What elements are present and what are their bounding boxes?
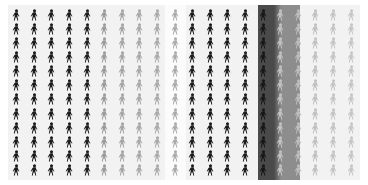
person-icon xyxy=(275,122,286,134)
icon-cell xyxy=(114,51,132,63)
person-icon xyxy=(187,122,198,134)
icon-cell xyxy=(219,136,237,148)
person-icon xyxy=(205,37,216,49)
person-icon xyxy=(346,9,357,21)
person-icon xyxy=(293,136,304,148)
person-icon xyxy=(117,93,128,105)
icon-column[interactable] xyxy=(131,5,149,180)
person-icon xyxy=(205,9,216,21)
icon-cell xyxy=(290,122,308,134)
icon-column[interactable] xyxy=(8,5,26,180)
icon-cell xyxy=(78,150,96,162)
icon-cell xyxy=(237,93,255,105)
icon-cell xyxy=(43,164,61,176)
person-icon xyxy=(346,122,357,134)
person-icon xyxy=(117,65,128,77)
icon-column[interactable] xyxy=(43,5,61,180)
icon-cell xyxy=(131,51,149,63)
icon-column[interactable] xyxy=(325,5,343,180)
icon-cell xyxy=(131,79,149,91)
person-icon xyxy=(293,164,304,176)
person-icon xyxy=(117,136,128,148)
person-icon xyxy=(46,51,57,63)
person-icon xyxy=(82,93,93,105)
icon-cell xyxy=(149,150,167,162)
person-icon xyxy=(99,108,110,120)
icon-cell xyxy=(290,108,308,120)
icon-cell xyxy=(342,23,360,35)
person-icon xyxy=(170,23,181,35)
person-icon xyxy=(275,108,286,120)
icon-cell xyxy=(237,164,255,176)
icon-cell xyxy=(307,23,325,35)
icon-column[interactable] xyxy=(166,5,184,180)
icon-column[interactable] xyxy=(290,5,308,180)
icon-cell xyxy=(342,164,360,176)
person-icon xyxy=(134,37,145,49)
icon-cell xyxy=(78,37,96,49)
icon-cell xyxy=(26,122,44,134)
icon-column[interactable] xyxy=(114,5,132,180)
icon-cell xyxy=(219,93,237,105)
person-icon xyxy=(222,122,233,134)
icon-cell xyxy=(307,122,325,134)
person-icon xyxy=(170,108,181,120)
icon-column[interactable] xyxy=(61,5,79,180)
icon-cell xyxy=(166,93,184,105)
person-icon xyxy=(152,164,163,176)
person-icon xyxy=(46,122,57,134)
icon-cell xyxy=(131,23,149,35)
icon-cell xyxy=(219,37,237,49)
person-icon xyxy=(346,150,357,162)
person-icon xyxy=(64,150,75,162)
person-icon xyxy=(82,164,93,176)
icon-cell xyxy=(307,37,325,49)
icon-cell xyxy=(26,93,44,105)
icon-cell xyxy=(8,23,26,35)
icon-column[interactable] xyxy=(202,5,220,180)
person-icon xyxy=(240,93,251,105)
icon-column[interactable] xyxy=(272,5,290,180)
person-icon xyxy=(152,37,163,49)
person-icon xyxy=(99,23,110,35)
icon-column[interactable] xyxy=(254,5,272,180)
person-icon xyxy=(117,51,128,63)
icon-column[interactable] xyxy=(96,5,114,180)
icon-cell xyxy=(325,37,343,49)
person-icon xyxy=(170,79,181,91)
person-icon xyxy=(64,136,75,148)
icon-column[interactable] xyxy=(219,5,237,180)
icon-column[interactable] xyxy=(26,5,44,180)
icon-cell xyxy=(290,37,308,49)
person-icon xyxy=(205,136,216,148)
icon-cell xyxy=(114,108,132,120)
icon-cell xyxy=(166,150,184,162)
icon-cell xyxy=(184,93,202,105)
icon-column[interactable] xyxy=(78,5,96,180)
icon-cell xyxy=(272,23,290,35)
icon-column[interactable] xyxy=(237,5,255,180)
icon-cell xyxy=(254,79,272,91)
person-icon xyxy=(29,79,40,91)
icon-cell xyxy=(290,9,308,21)
icon-cell xyxy=(325,122,343,134)
icon-cell xyxy=(184,108,202,120)
icon-cell xyxy=(325,9,343,21)
person-icon xyxy=(64,79,75,91)
icon-cell xyxy=(26,23,44,35)
icon-cell xyxy=(61,150,79,162)
person-icon xyxy=(187,93,198,105)
icon-cell xyxy=(290,93,308,105)
person-icon xyxy=(205,122,216,134)
icon-cell xyxy=(96,79,114,91)
person-icon xyxy=(275,79,286,91)
icon-column[interactable] xyxy=(307,5,325,180)
person-icon xyxy=(134,79,145,91)
person-icon xyxy=(205,23,216,35)
icon-column[interactable] xyxy=(342,5,360,180)
icon-cell xyxy=(43,37,61,49)
icon-column[interactable] xyxy=(184,5,202,180)
person-icon xyxy=(222,9,233,21)
icon-cell xyxy=(61,93,79,105)
icon-column[interactable] xyxy=(149,5,167,180)
